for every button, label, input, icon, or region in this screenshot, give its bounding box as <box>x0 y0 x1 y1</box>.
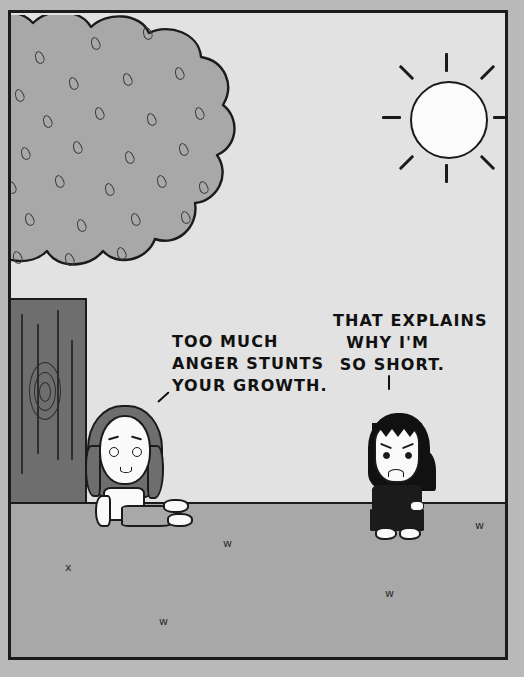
standing-girl-hand <box>410 501 424 511</box>
character-standing-girl <box>358 409 458 535</box>
sitting-girl-head <box>99 415 151 485</box>
character-sitting-girl <box>77 399 197 531</box>
standing-girl-eye <box>405 452 412 459</box>
standing-girl-shoe <box>399 527 421 540</box>
standing-girl-bangs <box>372 421 422 441</box>
grass-tuft: w <box>475 520 484 531</box>
dialogue-left: TOO MUCH ANGER STUNTS YOUR GROWTH. <box>172 331 328 397</box>
standing-girl-shoe <box>375 527 397 540</box>
grass-tuft: w <box>223 538 232 549</box>
sun-ray-n <box>445 53 448 72</box>
sun-ray-w <box>382 116 401 119</box>
standing-girl-eye <box>383 452 390 459</box>
sitting-girl-eye <box>132 447 142 457</box>
standing-girl-mouth <box>388 469 404 477</box>
sun-ray-ne <box>480 65 496 81</box>
grass-tuft: w <box>385 588 394 599</box>
sitting-girl-shoe <box>167 513 193 527</box>
sun-ray-e <box>493 116 508 119</box>
tree-trunk <box>8 298 87 520</box>
comic-root: x w w w w <box>0 0 524 677</box>
sun-ray-nw <box>399 65 415 81</box>
sun <box>382 53 508 183</box>
sun-ray-s <box>445 164 448 183</box>
comic-panel: x w w w w <box>8 10 508 660</box>
dialogue-right: THAT EXPLAINS WHY I'M SO SHORT. <box>333 310 488 376</box>
sun-ray-se <box>480 155 496 171</box>
sun-ray-sw <box>399 155 415 171</box>
grass-tuft: w <box>159 616 168 627</box>
grass-tuft: x <box>65 562 72 573</box>
sitting-girl-eye <box>109 447 119 457</box>
sitting-girl-shoe <box>163 499 189 513</box>
sun-disc <box>410 81 488 159</box>
